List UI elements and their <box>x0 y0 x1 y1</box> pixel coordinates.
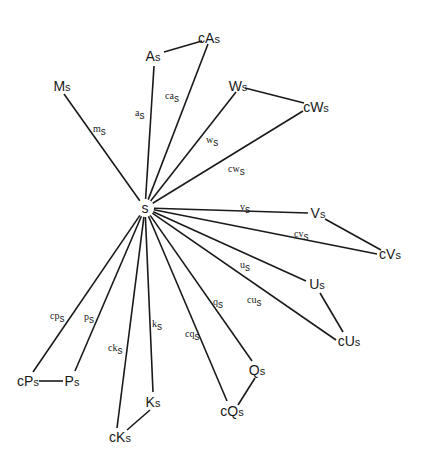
star-graph-diagram: msascaswscwsvscvsuscusqscqsksckspscps Ms… <box>0 0 423 466</box>
node-cUs: cUs <box>338 333 361 349</box>
node-Us: Us <box>309 276 325 292</box>
edge-s-cVs <box>154 210 377 254</box>
edge-label-cAs: cas <box>165 90 179 104</box>
edge-s-Ms <box>64 94 140 201</box>
edge-label-Ps: ps <box>84 311 94 325</box>
node-cPs: cPs <box>17 373 39 389</box>
edge-s-cWs <box>153 111 303 203</box>
node-Ws: Ws <box>229 78 248 94</box>
edge-label-Vs: vs <box>240 201 250 215</box>
node-cWs: cWs <box>303 99 329 115</box>
node-Qs: Qs <box>249 362 266 378</box>
edge-Qs-cQs <box>238 378 255 405</box>
node-Ps: Ps <box>65 373 80 389</box>
node-cQs: cQs <box>220 403 244 419</box>
node-As: As <box>146 48 161 64</box>
edge-s-As <box>146 66 154 199</box>
edge-label-Ks: ks <box>152 318 162 332</box>
edge-Ws-cWs <box>245 88 304 103</box>
edge-label-Us: us <box>240 259 250 273</box>
edge-label-cQs: cqs <box>185 328 199 342</box>
edge-As-cAs <box>164 41 202 52</box>
center-node: s <box>142 200 149 216</box>
edge-s-cPs <box>33 215 140 372</box>
center-node-label: s <box>142 200 149 216</box>
edge-s-cAs <box>148 44 208 200</box>
edge-label-cWs: cws <box>228 163 245 177</box>
edge-label-Ws: ws <box>206 134 218 148</box>
node-Ms: Ms <box>53 78 71 94</box>
node-Ks: Ks <box>146 394 161 410</box>
node-Vs: Vs <box>311 205 326 221</box>
edge-label-As: as <box>135 107 144 121</box>
node-cKs: cKs <box>109 429 131 445</box>
edge-Ks-cKs <box>127 410 150 430</box>
edge-s-Vs <box>154 208 308 213</box>
edge-s-cKs <box>117 217 144 428</box>
edge-label-cUs: cus <box>247 294 261 308</box>
edge-label-Ms: ms <box>93 123 106 137</box>
edge-label-cVs: cvs <box>294 228 308 242</box>
edge-label-cKs: cks <box>108 342 122 356</box>
edge-label-cPs: cps <box>50 310 64 324</box>
edge-s-Ks <box>145 217 153 392</box>
node-cAs: cAs <box>198 30 220 46</box>
node-cVs: cVs <box>379 246 401 262</box>
pair-edges <box>39 41 381 430</box>
edge-Us-cUs <box>320 293 343 332</box>
edge-s-Us <box>153 212 306 281</box>
edge-s-Ws <box>151 92 236 201</box>
